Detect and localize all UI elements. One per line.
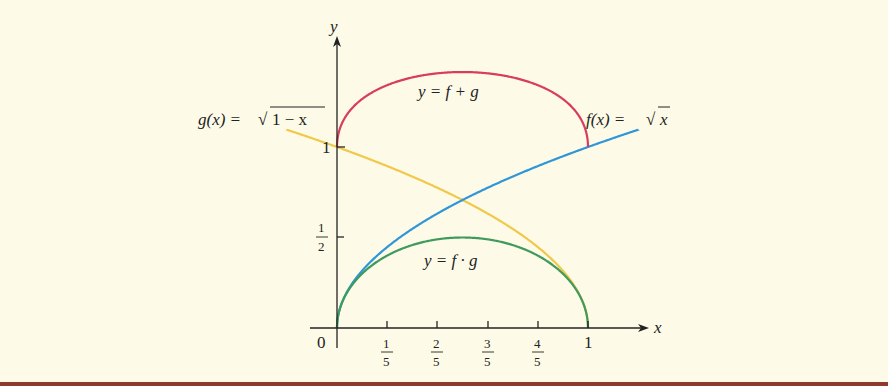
svg-text:3: 3: [484, 336, 491, 351]
svg-text:2: 2: [318, 239, 325, 254]
svg-text:1: 1: [318, 220, 325, 235]
svg-text:5: 5: [534, 354, 541, 369]
svg-text:g(x) =: g(x) =: [198, 110, 241, 129]
y-tick-label-1-2: 1 2: [316, 220, 328, 254]
x-tick-label-4-5: 4 5: [532, 336, 544, 369]
svg-text:4: 4: [534, 336, 541, 351]
curve-g: [287, 130, 588, 328]
svg-text:√: √: [258, 110, 268, 129]
curve-f: [337, 130, 638, 328]
svg-text:5: 5: [433, 354, 440, 369]
svg-text:2: 2: [433, 336, 440, 351]
label-g: g(x) = √ 1 − x: [198, 107, 325, 129]
svg-text:1: 1: [383, 336, 390, 351]
x-tick-label-1: 1: [584, 333, 593, 352]
svg-text:5: 5: [383, 354, 390, 369]
bottom-border: [0, 382, 888, 386]
function-graph: x y 0 1 5 2 5 3 5 4 5 1 1 2 1 g(x) = √ 1…: [0, 0, 888, 386]
x-tick-label-1-5: 1 5: [381, 336, 393, 369]
x-tick-label-2-5: 2 5: [431, 336, 443, 369]
y-tick-label-1: 1: [322, 138, 331, 157]
y-axis-label: y: [328, 17, 338, 36]
x-tick-label-3-5: 3 5: [482, 336, 494, 369]
svg-text:√: √: [646, 110, 656, 129]
origin-label: 0: [317, 333, 326, 352]
svg-text:1 − x: 1 − x: [272, 110, 308, 129]
label-f-times-g: y = f · g: [422, 251, 478, 270]
svg-text:x: x: [659, 110, 668, 129]
x-axis-label: x: [653, 318, 662, 337]
label-f-plus-g: y = f + g: [416, 82, 479, 101]
label-f: f(x) = √ x: [586, 107, 670, 129]
svg-text:f(x) =: f(x) =: [586, 110, 625, 129]
svg-text:5: 5: [484, 354, 491, 369]
